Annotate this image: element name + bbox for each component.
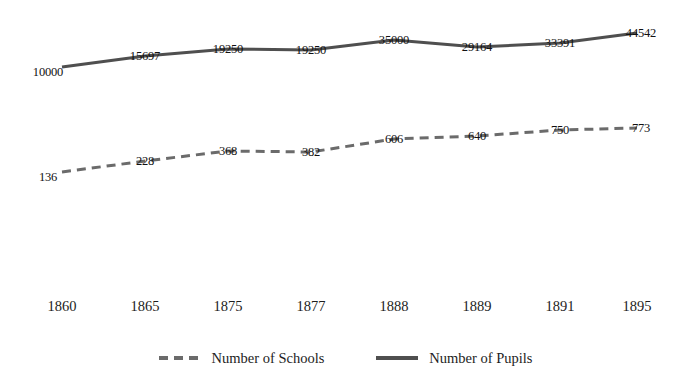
x-axis-tick-label: 1875 — [214, 298, 243, 315]
legend-label-number-of-pupils: Number of Pupils — [429, 350, 532, 367]
data-label: 773 — [632, 121, 650, 136]
data-label: 382 — [302, 145, 320, 160]
plot-area: 1000015697192501925035000291643339144542… — [0, 0, 691, 290]
legend-item-number-of-pupils[interactable]: Number of Pupils — [376, 350, 532, 367]
data-label: 228 — [136, 154, 154, 169]
dashed-line-icon — [159, 356, 201, 360]
data-label: 15697 — [130, 49, 160, 64]
series-lines — [0, 0, 691, 290]
data-label: 19250 — [296, 43, 326, 58]
x-axis-tick-label: 1865 — [131, 298, 160, 315]
data-label: 10000 — [33, 65, 63, 80]
x-axis-tick-label: 1888 — [380, 298, 409, 315]
data-label: 640 — [468, 129, 486, 144]
x-axis-tick-label: 1860 — [48, 298, 77, 315]
data-label: 29164 — [462, 40, 492, 55]
chart-legend: Number of Schools Number of Pupils — [0, 345, 691, 371]
legend-label-number-of-schools: Number of Schools — [212, 350, 325, 367]
legend-item-number-of-schools[interactable]: Number of Schools — [159, 350, 325, 367]
solid-line-icon — [376, 356, 418, 360]
x-axis-tick-label: 1889 — [463, 298, 492, 315]
data-label: 136 — [39, 170, 57, 185]
x-axis-tick-label: 1895 — [623, 298, 652, 315]
data-label: 35000 — [379, 33, 409, 48]
data-label: 750 — [551, 123, 569, 138]
data-label: 368 — [219, 144, 237, 159]
x-axis-tick-label: 1877 — [297, 298, 326, 315]
x-axis-tick-label: 1891 — [546, 298, 575, 315]
data-label: 606 — [385, 132, 403, 147]
data-label: 19250 — [213, 42, 243, 57]
data-label: 44542 — [626, 26, 656, 41]
x-axis-tick-labels: 18601865187518771888188918911895 — [0, 298, 691, 326]
data-label: 33391 — [545, 36, 575, 51]
line-chart: 1000015697192501925035000291643339144542… — [0, 0, 691, 383]
